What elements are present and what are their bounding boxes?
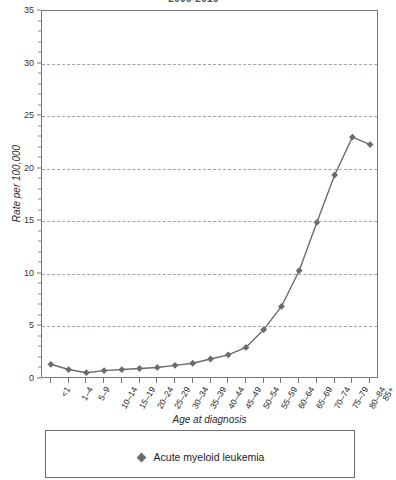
y-tick-label: 25 [24, 110, 34, 120]
y-tick-label: 20 [24, 163, 34, 173]
x-tick-label: <1 [59, 385, 73, 398]
data-point-marker[interactable] [118, 366, 125, 373]
x-tick-mark [103, 378, 104, 383]
x-tick-mark [68, 378, 69, 383]
gridline [42, 169, 377, 170]
data-point-marker[interactable] [47, 361, 54, 368]
x-tick-mark [316, 378, 317, 383]
x-tick-mark [50, 378, 51, 383]
x-tick-mark [121, 378, 122, 383]
x-tick-mark [192, 378, 193, 383]
data-point-marker[interactable] [172, 362, 179, 369]
x-tick-label: 65–69 [314, 385, 334, 410]
data-point-marker[interactable] [349, 134, 356, 141]
diamond-marker-icon [136, 452, 147, 463]
x-tick-label: 70–74 [332, 385, 352, 410]
x-tick-label: 15–19 [137, 385, 157, 410]
gridline [42, 274, 377, 275]
x-tick-mark [334, 378, 335, 383]
legend: Acute myeloid leukemia [45, 430, 355, 478]
x-tick-label: 30–34 [190, 385, 210, 410]
x-tick-label: 10–14 [119, 385, 139, 410]
x-tick-mark [369, 378, 370, 383]
x-tick-mark [351, 378, 352, 383]
data-point-marker[interactable] [367, 141, 374, 148]
gridline [42, 116, 377, 117]
x-axis-title: Age at diagnosis [41, 414, 378, 425]
x-tick-label: 5–9 [96, 385, 112, 402]
x-tick-mark [210, 378, 211, 383]
y-tick-label: 30 [24, 58, 34, 68]
plot-area [41, 10, 378, 378]
data-point-marker[interactable] [331, 172, 338, 179]
legend-item[interactable]: Acute myeloid leukemia [46, 451, 354, 463]
x-tick-label: 50–54 [261, 385, 281, 410]
data-point-marker[interactable] [314, 219, 321, 226]
data-point-marker[interactable] [154, 364, 161, 371]
x-tick-label: 1–4 [79, 385, 95, 402]
data-point-marker[interactable] [189, 360, 196, 367]
x-tick-mark [227, 378, 228, 383]
y-tick-label: 35 [24, 5, 34, 15]
data-point-marker[interactable] [65, 366, 72, 373]
y-tick-label: 10 [24, 268, 34, 278]
x-tick-mark [263, 378, 264, 383]
x-tick-mark [280, 378, 281, 383]
data-point-marker[interactable] [83, 369, 90, 376]
x-tick-mark [245, 378, 246, 383]
data-point-marker[interactable] [207, 356, 214, 363]
y-tick-label: 0 [29, 373, 34, 383]
x-tick-mark [298, 378, 299, 383]
data-point-marker[interactable] [225, 351, 232, 358]
gridline [42, 221, 377, 222]
gridline [42, 64, 377, 65]
page-title: 2006-2010 [0, 0, 387, 4]
series-layer [42, 11, 379, 379]
x-tick-mark [174, 378, 175, 383]
data-point-marker[interactable] [136, 365, 143, 372]
y-tick-label: 5 [29, 320, 34, 330]
x-tick-mark [139, 378, 140, 383]
series-line [51, 137, 370, 373]
y-axis-title: Rate per 100,000 [11, 114, 22, 254]
legend-item-label: Acute myeloid leukemia [154, 451, 265, 463]
y-tick-label: 15 [24, 215, 34, 225]
gridline [42, 326, 377, 327]
x-tick-mark [85, 378, 86, 383]
x-tick-mark [156, 378, 157, 383]
data-point-marker[interactable] [101, 367, 108, 374]
